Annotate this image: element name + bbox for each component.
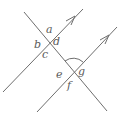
angle-arc [65,58,83,62]
arrow-icon [66,16,75,25]
label-a: a [46,23,53,36]
label-e: e [56,68,63,81]
label-d: d [53,35,60,48]
label-f: f [66,79,73,92]
lower-parallel-line [37,27,117,112]
label-b: b [34,38,41,51]
parallel-lines-diagram: a b c d e f g [0,0,122,118]
label-c: c [42,48,48,61]
label-g: g [78,65,85,78]
